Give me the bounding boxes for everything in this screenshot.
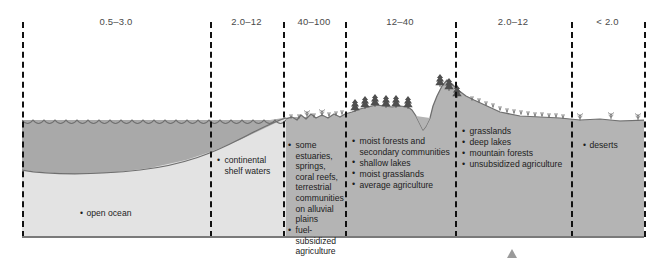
diagram-canvas: 0.5–3.0 2.0–12 40–100 12–40 2.0–12 < 2.0… (0, 0, 663, 263)
list-item: mountain forests (462, 148, 572, 159)
range-label-moist-forests: 12–40 (345, 16, 455, 27)
list-item: unsubsidized agriculture (462, 159, 572, 170)
continental-shelf-line-1: continental (225, 155, 267, 165)
divider-2 (283, 22, 285, 237)
label-deserts: deserts (583, 140, 618, 150)
list-estuaries: some estuaries, springs, coral reefs, te… (288, 140, 344, 257)
range-label-open-ocean: 0.5–3.0 (22, 16, 210, 27)
list-item: fuel-subsidized agriculture (288, 225, 344, 257)
list-item: some estuaries, springs, coral reefs, te… (288, 140, 344, 225)
continental-shelf-line-2: shelf waters (225, 166, 271, 176)
range-label-continental-shelf: 2.0–12 (210, 16, 283, 27)
divider-1 (210, 22, 212, 237)
range-label-estuaries: 40–100 (283, 16, 345, 27)
range-label-grasslands: 2.0–12 (455, 16, 571, 27)
label-open-ocean: open ocean (80, 208, 131, 218)
list-item: shallow lakes (352, 158, 450, 169)
list-item: moist grasslands (352, 169, 450, 180)
list-grasslands: grasslands deep lakes mountain forests u… (462, 126, 572, 170)
list-item: moist forests and secondary communities (352, 136, 450, 157)
position-marker-triangle (507, 249, 517, 258)
divider-6 (644, 22, 646, 237)
divider-3 (345, 22, 347, 237)
range-label-deserts: < 2.0 (571, 16, 644, 27)
divider-0 (22, 22, 24, 237)
divider-4 (455, 22, 457, 237)
list-item: grasslands (462, 126, 572, 137)
list-item: deep lakes (462, 137, 572, 148)
list-moist-forests: moist forests and secondary communities … (352, 136, 450, 191)
label-continental-shelf: • continental shelf waters (217, 155, 279, 176)
list-item: average agriculture (352, 180, 450, 191)
